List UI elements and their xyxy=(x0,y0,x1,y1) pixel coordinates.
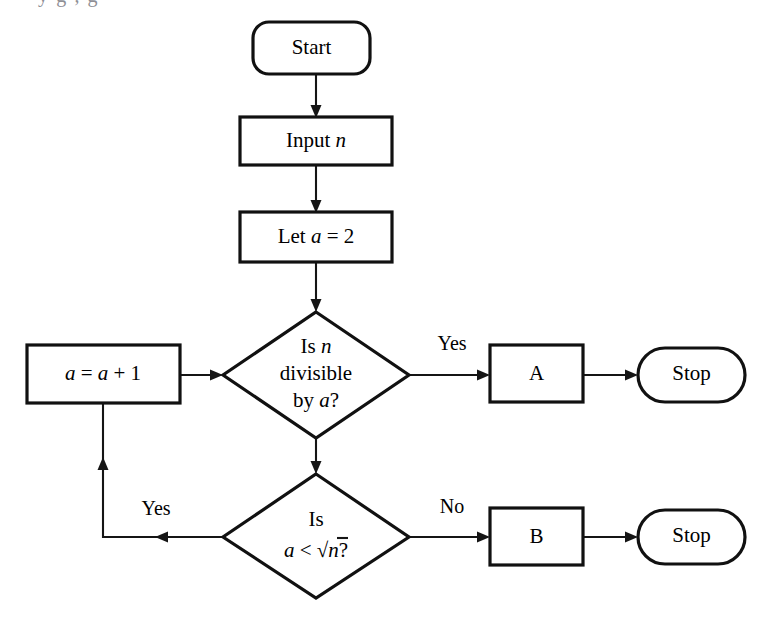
decision-divisible-is: Is xyxy=(301,334,321,358)
edge-label-yes-sqrt: Yes xyxy=(141,497,170,519)
node-start-label: Start xyxy=(292,35,332,59)
increment-eq: = xyxy=(75,361,97,385)
node-input-n-label: Input n xyxy=(286,128,346,152)
decision-sqrt-var-a: a xyxy=(284,538,295,562)
node-decision-divisible[interactable]: Is n divisible by a? xyxy=(223,312,409,438)
edge-let-to-decision-divisible xyxy=(311,262,322,312)
decision-sqrt-qmark: ? xyxy=(339,538,348,562)
node-let-var: a xyxy=(311,224,322,248)
node-let-suffix: = 2 xyxy=(321,224,354,248)
node-box-b-label: B xyxy=(529,524,543,548)
edge-decision-divisible-to-decision-sqrt xyxy=(311,438,322,474)
edge-label-no-sqrt: No xyxy=(440,495,464,517)
node-stop-a-label: Stop xyxy=(672,361,711,385)
node-increment-a[interactable]: a = a + 1 xyxy=(27,345,180,403)
increment-var-a2: a xyxy=(98,361,109,385)
node-let-a-2[interactable]: Let a = 2 xyxy=(240,212,392,262)
edge-start-to-input xyxy=(311,74,322,118)
decision-divisible-qmark: ? xyxy=(330,388,339,412)
node-stop-b-label: Stop xyxy=(672,523,711,547)
node-box-a-label: A xyxy=(529,361,545,385)
decision-sqrt-radical-sign: √ xyxy=(317,538,329,562)
increment-var-a1: a xyxy=(65,361,76,385)
edge-increment-to-decision-divisible xyxy=(180,370,223,381)
decision-divisible-var-a: a xyxy=(319,388,330,412)
node-stop-b[interactable]: Stop xyxy=(638,510,745,564)
page-text-remnant: y g , g xyxy=(0,0,760,14)
flowchart-canvas: Start Input n Let a = 2 Is n divisible b… xyxy=(0,0,760,618)
edge-decision-sqrt-loopback xyxy=(98,403,224,543)
node-stop-a[interactable]: Stop xyxy=(638,348,745,402)
decision-divisible-by: by xyxy=(293,388,319,412)
decision-divisible-line3: by a? xyxy=(293,388,339,412)
edge-label-yes-divisible: Yes xyxy=(437,332,466,354)
decision-divisible-var-n: n xyxy=(321,334,332,358)
decision-sqrt-var-n: n xyxy=(328,538,339,562)
increment-plus-one: + 1 xyxy=(108,361,141,385)
decision-sqrt-line1: Is xyxy=(308,507,323,531)
node-let-a-2-label: Let a = 2 xyxy=(278,224,355,248)
node-input-n-prefix: Input xyxy=(286,128,336,152)
node-let-prefix: Let xyxy=(278,224,311,248)
edge-input-to-let xyxy=(311,165,322,213)
partial-top-text: y g , g xyxy=(38,0,99,7)
edge-decision-divisible-to-a xyxy=(409,370,490,381)
node-increment-a-label: a = a + 1 xyxy=(65,361,141,385)
decision-sqrt-op: < xyxy=(294,538,316,562)
node-box-a[interactable]: A xyxy=(490,345,583,402)
decision-sqrt-line2: a < √n? xyxy=(284,538,348,562)
node-start[interactable]: Start xyxy=(253,22,370,74)
node-box-b[interactable]: B xyxy=(490,508,583,565)
edge-a-to-stop xyxy=(583,370,638,381)
edge-decision-sqrt-to-b xyxy=(409,532,490,543)
edge-b-to-stop xyxy=(583,532,638,543)
node-input-n[interactable]: Input n xyxy=(240,117,392,165)
flowchart-diagram: y g , g xyxy=(0,0,760,618)
decision-divisible-line2: divisible xyxy=(280,361,352,385)
node-input-n-var: n xyxy=(336,128,347,152)
decision-divisible-line1: Is n xyxy=(301,334,332,358)
node-decision-sqrt[interactable]: Is a < √n? xyxy=(223,474,409,598)
